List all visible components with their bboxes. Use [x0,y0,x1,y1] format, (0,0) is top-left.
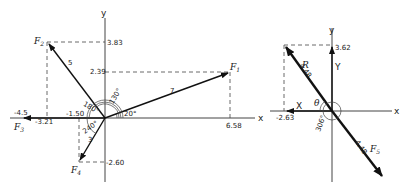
x-tick-neg-4.5: -4.5 [14,109,28,117]
theta-label: θ [314,98,320,108]
f2-magnitude: 5 [68,59,72,67]
f5-label: F5 [369,144,380,155]
f3-label: F3 [13,122,24,133]
y-tick-neg-2.60: -2.60 [106,159,124,167]
angle-label-180: 180° [82,100,101,115]
right-y-axis-label: y [329,25,335,35]
y-component-label: Y [334,62,341,72]
y-component-value: 3.62 [335,44,351,52]
angle-label-240: 240° [81,119,99,135]
force-vector-diagrams: x y F1 F2 F3 F4 7 5 3 3.83 2.39 -2.60 6.… [0,0,412,191]
angle-label-306: 306° [314,114,327,133]
angle-label-20: 20° [124,110,136,118]
resultant-vector [286,47,332,111]
y-tick-2.39: 2.39 [90,68,106,76]
x-tick-neg-3.21: -3.21 [35,118,53,126]
angle-arc-20 [116,114,117,118]
f1-label: F1 [229,62,240,73]
x-tick-6.58: 6.58 [226,122,242,130]
y-tick-3.83: 3.83 [107,39,123,47]
x-axis-label: x [258,113,264,123]
x-component-label: X [296,101,302,111]
f1-magnitude: 7 [170,87,174,95]
angle-label-130: 130° [108,87,123,106]
f4-label: F4 [70,165,81,176]
f2-label: F2 [33,36,44,47]
right-diagram: x y R 4.48 θ Y 3.62 X -2.63 306° 4.48 F5 [270,25,400,182]
right-x-axis-label: x [394,106,400,116]
resultant-magnitude: 4.48 [297,62,312,79]
left-diagram: x y F1 F2 F3 F4 7 5 3 3.83 2.39 -2.60 6.… [10,8,264,182]
x-tick-neg-1.50: -1.50 [66,110,84,118]
x-component-value: -2.63 [276,114,294,122]
f4-magnitude: 3 [88,136,92,144]
y-axis-label: y [101,8,107,18]
